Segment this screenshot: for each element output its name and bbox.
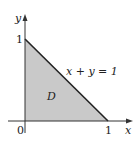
y-axis-label: y (14, 12, 22, 25)
x-axis-label: x (125, 124, 132, 137)
y-axis-arrow-icon (23, 14, 28, 21)
region-diagram: y 1 0 1 x x + y = 1 D (0, 0, 140, 149)
y-tick-label: 1 (16, 33, 23, 46)
x-tick-label: 1 (105, 124, 112, 137)
equation-label: x + y = 1 (66, 65, 118, 78)
region-label: D (46, 90, 56, 103)
x-axis-arrow-icon (126, 119, 133, 124)
origin-label: 0 (17, 124, 24, 137)
